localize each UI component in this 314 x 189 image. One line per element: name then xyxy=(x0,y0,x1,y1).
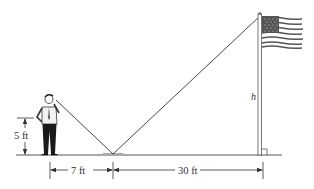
flagpole-mirror-diagram: 5 ft h xyxy=(0,0,314,189)
pole-height-label: h xyxy=(251,91,256,102)
mirror-to-pole-label: 30 ft xyxy=(178,165,198,176)
person-figure xyxy=(37,94,59,155)
mirror xyxy=(103,153,123,155)
flagpole xyxy=(258,12,262,155)
person-height-label: 5 ft xyxy=(14,130,28,141)
american-flag xyxy=(262,16,303,48)
person-to-mirror-label: 7 ft xyxy=(71,165,85,176)
light-ray-lines xyxy=(56,16,260,154)
right-angle-marker xyxy=(262,149,267,155)
